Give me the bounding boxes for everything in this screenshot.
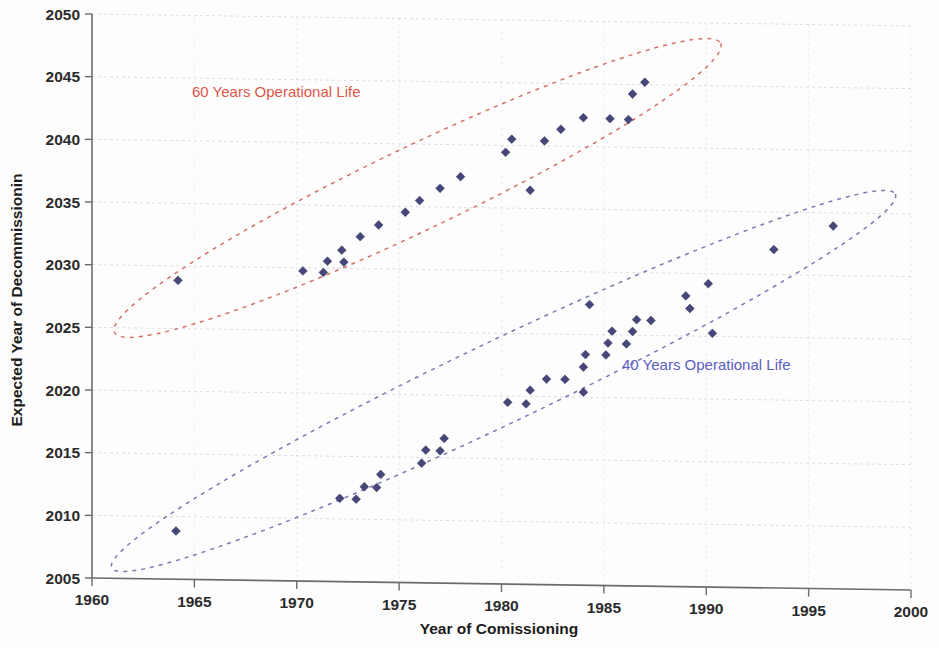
- data-point-marker: [540, 137, 549, 146]
- data-point-marker: [298, 266, 307, 275]
- data-point-marker: [581, 350, 590, 359]
- data-point-marker: [356, 232, 365, 241]
- data-point-marker: [704, 279, 713, 288]
- data-point-marker: [526, 386, 535, 395]
- data-point-marker: [769, 245, 778, 254]
- data-point-marker: [501, 148, 510, 157]
- data-point-marker: [323, 257, 332, 266]
- data-point-marker: [174, 276, 183, 285]
- data-point-marker: [556, 125, 565, 134]
- y-tick-label: 2040: [46, 131, 80, 148]
- data-point-marker: [606, 114, 615, 123]
- data-point-marker: [604, 339, 613, 348]
- y-tick-label: 2015: [46, 444, 81, 461]
- data-point-marker: [640, 78, 649, 87]
- data-point-marker: [579, 113, 588, 122]
- data-point-marker: [417, 459, 426, 468]
- y-tick-label: 2050: [46, 6, 80, 23]
- data-point-marker: [526, 186, 535, 195]
- data-point-marker: [624, 115, 633, 124]
- x-tick-label: 1990: [689, 600, 723, 617]
- y-tick-label: 2020: [46, 382, 80, 399]
- data-point-marker: [579, 363, 588, 372]
- chart-annotations: 60 Years Operational Life40 Years Operat…: [192, 83, 790, 373]
- y-tick-label: 2005: [46, 570, 81, 587]
- data-point-marker: [628, 327, 637, 336]
- x-tick-label: 1985: [587, 599, 622, 616]
- chart-canvas: 2005201020152020202520302035204020452050…: [0, 0, 939, 648]
- data-point-marker: [421, 446, 430, 455]
- x-tick-label: 1960: [75, 591, 109, 608]
- data-point-marker: [632, 315, 641, 324]
- data-point-marker: [337, 246, 346, 255]
- annot-60-label: 60 Years Operational Life: [192, 83, 360, 100]
- data-point-marker: [608, 327, 617, 336]
- data-point-marker: [522, 399, 531, 408]
- y-tick-label: 2035: [46, 194, 81, 211]
- data-point-marker: [542, 375, 551, 384]
- data-point-marker: [602, 351, 611, 360]
- data-point-marker: [503, 398, 512, 407]
- x-gridlines: [194, 16, 808, 589]
- y-tick-label: 2045: [46, 68, 81, 85]
- x-tick-label: 1965: [177, 593, 212, 610]
- data-points: [172, 78, 838, 536]
- data-point-marker: [579, 388, 588, 397]
- data-point-marker: [436, 184, 445, 193]
- data-point-marker: [585, 300, 594, 309]
- data-point-marker: [507, 135, 516, 144]
- y-tick-label: 2010: [46, 507, 80, 524]
- data-point-marker: [685, 304, 694, 313]
- data-point-marker: [360, 482, 369, 491]
- data-point-marker: [440, 434, 449, 443]
- y-tick-label: 2030: [46, 256, 80, 273]
- axis-tick-labels: 2005201020152020202520302035204020452050…: [46, 6, 929, 621]
- x-axis-title: Year of Comissioning: [420, 620, 578, 637]
- data-point-marker: [401, 208, 410, 217]
- axis-ticks: [85, 14, 911, 598]
- data-point-marker: [172, 527, 181, 536]
- ellipse-40-years: [94, 157, 913, 605]
- x-tick-label: 1975: [382, 596, 417, 613]
- data-point-marker: [339, 258, 348, 267]
- data-point-marker: [456, 172, 465, 181]
- data-point-marker: [374, 221, 383, 230]
- data-point-marker: [376, 470, 385, 479]
- y-axis-title: Expected Year of Decommissionin: [8, 174, 25, 427]
- x-tick-label: 1970: [280, 594, 314, 611]
- annot-40-label: 40 Years Operational Life: [622, 356, 790, 373]
- x-tick-label: 2000: [894, 603, 928, 620]
- data-point-marker: [372, 483, 381, 492]
- data-point-marker: [415, 196, 424, 205]
- x-tick-label: 1995: [791, 602, 826, 619]
- ellipse-60-years: [96, 6, 738, 371]
- data-point-marker: [829, 222, 838, 231]
- data-point-marker: [436, 446, 445, 455]
- data-point-marker: [319, 268, 328, 277]
- data-point-marker: [622, 340, 631, 349]
- scatter-chart: 2005201020152020202520302035204020452050…: [0, 0, 939, 648]
- data-point-marker: [352, 495, 361, 504]
- x-tick-label: 1980: [484, 597, 518, 614]
- data-point-marker: [708, 329, 717, 338]
- data-point-marker: [647, 316, 656, 325]
- data-point-marker: [561, 375, 570, 384]
- y-tick-label: 2025: [46, 319, 81, 336]
- data-point-marker: [681, 292, 690, 301]
- data-point-marker: [628, 90, 637, 99]
